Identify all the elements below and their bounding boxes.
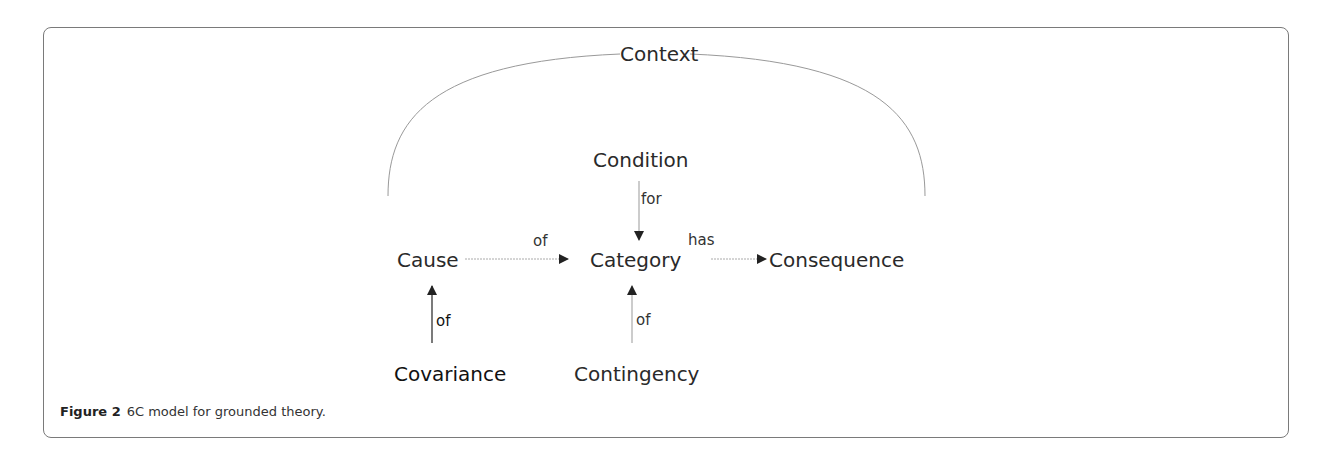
edge-label-cause-of: of xyxy=(533,234,547,249)
edge-label-covariance-of: of xyxy=(436,314,450,329)
figure-caption-text: 6C model for grounded theory. xyxy=(127,404,326,419)
node-category: Category xyxy=(590,250,681,270)
edge-label-contingency-of: of xyxy=(636,313,650,328)
figure-caption: Figure 26C model for grounded theory. xyxy=(60,404,326,419)
edge-label-for: for xyxy=(641,192,662,207)
node-condition: Condition xyxy=(593,150,688,170)
node-cause: Cause xyxy=(397,250,459,270)
context-arc-right xyxy=(690,54,925,196)
context-arc-left xyxy=(388,54,620,196)
figure-label: Figure 2 xyxy=(60,404,121,419)
node-consequence: Consequence xyxy=(769,250,904,270)
node-covariance: Covariance xyxy=(394,364,506,384)
edge-label-has: has xyxy=(688,233,715,248)
node-context: Context xyxy=(620,44,698,64)
diagram-lines xyxy=(0,0,1326,466)
node-contingency: Contingency xyxy=(574,364,699,384)
